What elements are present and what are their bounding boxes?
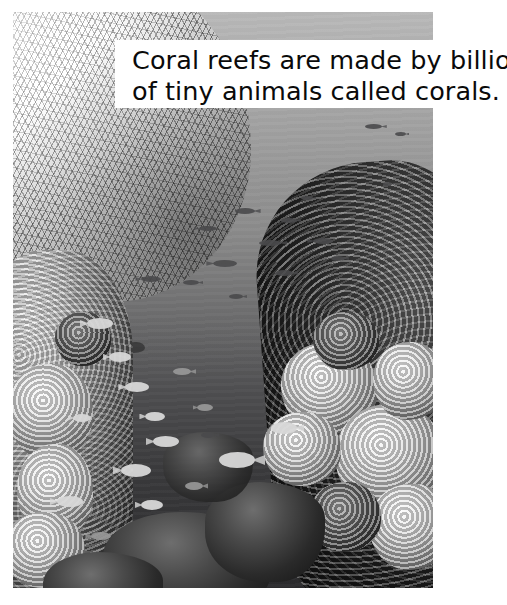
- fish: [57, 496, 83, 507]
- fish: [281, 218, 297, 223]
- fish: [201, 432, 215, 438]
- fish: [365, 124, 382, 129]
- fish: [213, 260, 237, 267]
- fish: [199, 226, 217, 231]
- fish: [395, 132, 406, 136]
- fish: [109, 352, 131, 362]
- fish: [383, 182, 392, 186]
- fish: [197, 404, 213, 411]
- fish: [331, 256, 345, 261]
- caption-line-2: of tiny animals called corals.: [132, 76, 507, 107]
- fish: [121, 464, 151, 477]
- fish: [91, 532, 111, 540]
- soft-coral-bush: [313, 312, 379, 370]
- fish: [141, 500, 163, 510]
- fish: [145, 412, 165, 421]
- fish: [173, 368, 191, 375]
- fish: [313, 238, 333, 244]
- page-root: Coral reefs are made by billions of tiny…: [0, 0, 507, 605]
- fish: [271, 422, 297, 434]
- fish: [125, 382, 149, 392]
- fish: [235, 208, 255, 214]
- fish: [185, 482, 203, 490]
- fish: [219, 452, 255, 468]
- fish: [87, 318, 113, 329]
- caption-box: Coral reefs are made by billions of tiny…: [115, 40, 507, 108]
- fish: [301, 196, 313, 200]
- fish: [259, 240, 281, 246]
- fish: [183, 280, 199, 285]
- caption-line-1: Coral reefs are made by billions: [132, 45, 507, 76]
- fish: [73, 414, 91, 422]
- fish: [141, 276, 161, 282]
- fish: [275, 270, 293, 276]
- fish: [229, 294, 243, 299]
- fish: [153, 436, 179, 447]
